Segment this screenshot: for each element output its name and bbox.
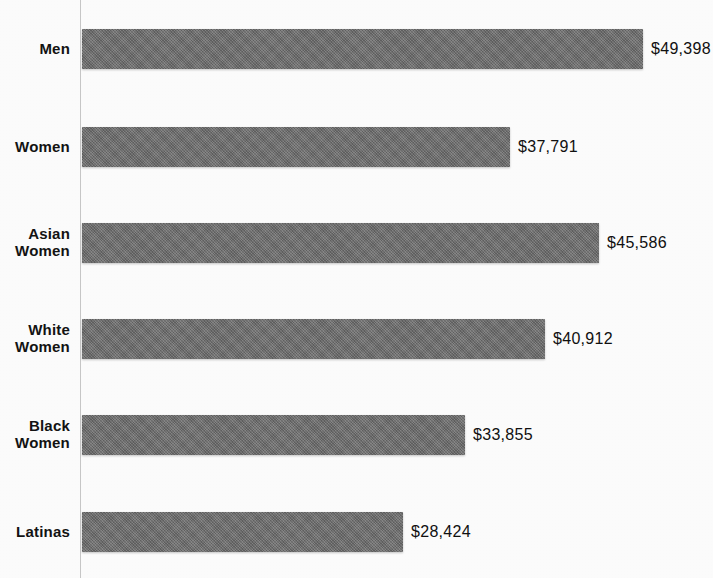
bar-value-label: $37,791 <box>518 126 578 168</box>
plot-area: Men $49,398 Women $37,791 Asian Women $4… <box>0 0 713 578</box>
bar <box>82 127 510 167</box>
bar-value-label: $40,912 <box>553 318 613 360</box>
category-label: Men <box>0 28 70 70</box>
category-label: Women <box>0 126 70 168</box>
bar-row: Latinas $28,424 <box>0 511 713 553</box>
bar <box>82 319 545 359</box>
bar-value-label: $28,424 <box>411 511 471 553</box>
bar <box>82 223 599 263</box>
bar-value-label: $45,586 <box>607 222 667 264</box>
bar <box>82 29 643 69</box>
bar-row: White Women $40,912 <box>0 318 713 360</box>
bar-row: Black Women $33,855 <box>0 414 713 456</box>
category-label: Asian Women <box>0 222 70 264</box>
category-label: Latinas <box>0 511 70 553</box>
category-label: White Women <box>0 318 70 360</box>
bar-row: Asian Women $45,586 <box>0 222 713 264</box>
bar-value-label: $33,855 <box>473 414 533 456</box>
bar-value-label: $49,398 <box>651 28 711 70</box>
category-label: Black Women <box>0 414 70 456</box>
bar <box>82 415 465 455</box>
bar <box>82 512 403 552</box>
bar-chart: Men $49,398 Women $37,791 Asian Women $4… <box>0 0 713 578</box>
y-axis-line <box>80 0 81 578</box>
bar-row: Women $37,791 <box>0 126 713 168</box>
bar-row: Men $49,398 <box>0 28 713 70</box>
